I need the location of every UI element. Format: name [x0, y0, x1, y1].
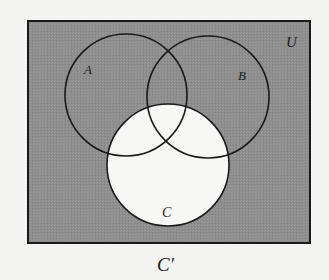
diagram-caption: C′ — [157, 254, 175, 275]
set-b-label: B — [238, 68, 246, 83]
set-a-label: A — [83, 62, 92, 77]
venn-diagram-svg: U A B C C′ — [0, 0, 329, 280]
universe-label: U — [286, 34, 298, 50]
venn-diagram-figure: U A B C C′ — [0, 0, 329, 280]
set-c-label: C — [162, 205, 172, 220]
